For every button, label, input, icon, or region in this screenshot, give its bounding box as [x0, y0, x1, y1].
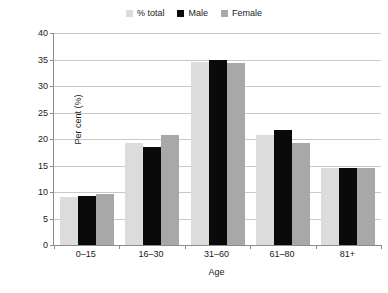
bar-chart: % totalMaleFemale 0510152025303540 Per c… — [0, 0, 388, 293]
y-axis-tick-label: 30 — [38, 82, 48, 91]
bar[interactable] — [292, 143, 310, 245]
y-axis-tick-label: 40 — [38, 29, 48, 38]
bar-group — [54, 33, 119, 245]
bar[interactable] — [78, 196, 96, 245]
bar-group — [119, 33, 184, 245]
bar-group — [316, 33, 381, 245]
bar[interactable] — [60, 197, 78, 245]
x-axis-tick-label: 81+ — [315, 250, 380, 259]
legend-label: % total — [137, 9, 165, 18]
plot-area: 0510152025303540 Per cent (%) — [53, 33, 381, 246]
y-axis-tick-label: 10 — [38, 188, 48, 197]
x-axis-tick-label: 31–60 — [184, 250, 249, 259]
legend-swatch-icon — [177, 10, 184, 17]
x-axis-tick-label: 0–15 — [53, 250, 118, 259]
x-axis-title: Age — [53, 268, 380, 277]
bar[interactable] — [321, 168, 339, 245]
legend-label: Male — [188, 9, 208, 18]
bar[interactable] — [161, 135, 179, 245]
bar[interactable] — [339, 168, 357, 245]
legend-entry[interactable]: Female — [221, 9, 262, 18]
y-axis-tick-label: 35 — [38, 55, 48, 64]
legend-entry[interactable]: Male — [177, 9, 208, 18]
bar[interactable] — [143, 147, 161, 245]
bar[interactable] — [256, 135, 274, 245]
bar-group — [250, 33, 315, 245]
bar[interactable] — [274, 130, 292, 245]
bar[interactable] — [357, 168, 375, 245]
x-tick-mark — [381, 245, 382, 249]
x-axis-labels: 0–1516–3031–6061–8081+ — [53, 250, 380, 259]
x-axis-tick-label: 61–80 — [249, 250, 314, 259]
y-axis-tick-label: 15 — [38, 161, 48, 170]
y-axis-tick-label: 25 — [38, 108, 48, 117]
bar[interactable] — [96, 194, 114, 245]
x-tick-mark — [119, 245, 120, 249]
bar-group — [185, 33, 250, 245]
bar[interactable] — [227, 63, 245, 245]
x-tick-mark — [54, 245, 55, 249]
legend-swatch-icon — [221, 10, 228, 17]
bars-layer — [54, 33, 381, 245]
y-axis-tick-label: 0 — [43, 241, 48, 250]
bar[interactable] — [125, 143, 143, 245]
legend-swatch-icon — [126, 10, 133, 17]
x-axis-tick-label: 16–30 — [118, 250, 183, 259]
chart-legend: % totalMaleFemale — [0, 9, 388, 18]
legend-entry[interactable]: % total — [126, 9, 165, 18]
x-tick-mark — [316, 245, 317, 249]
x-tick-mark — [185, 245, 186, 249]
x-tick-mark — [250, 245, 251, 249]
bar[interactable] — [191, 62, 209, 245]
y-axis-title: Per cent (%) — [74, 60, 83, 180]
legend-label: Female — [232, 9, 262, 18]
y-axis-tick-label: 20 — [38, 135, 48, 144]
y-axis-tick-label: 5 — [43, 214, 48, 223]
bar[interactable] — [209, 60, 227, 246]
